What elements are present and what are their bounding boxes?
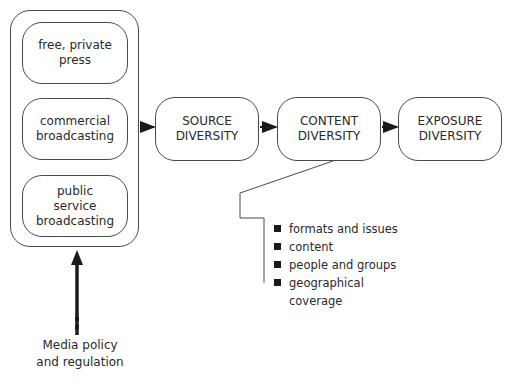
bullet-square-icon <box>274 243 281 250</box>
media-policy-label: Media policy and regulation <box>30 337 130 371</box>
list-item: geographical coverage <box>274 274 398 310</box>
connectors <box>0 0 509 383</box>
bullet-square-icon <box>274 225 281 232</box>
policy-arrow-head <box>71 250 83 265</box>
list-item: formats and issues <box>274 220 398 238</box>
content-aspects-list: formats and issues content people and gr… <box>274 220 398 310</box>
list-item: people and groups <box>274 256 398 274</box>
bullet-square-icon <box>274 279 281 286</box>
bullet-square-icon <box>274 261 281 268</box>
list-item: content <box>274 238 398 256</box>
